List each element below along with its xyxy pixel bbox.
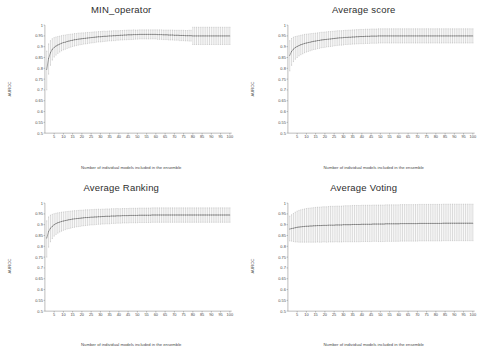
svg-text:10: 10 [61, 312, 66, 317]
plot-area-average-score: 0.50.550.60.650.70.750.80.850.90.9515101… [271, 22, 478, 146]
svg-text:0.85: 0.85 [35, 55, 43, 60]
svg-text:0.85: 0.85 [35, 232, 43, 237]
svg-text:0.8: 0.8 [37, 243, 43, 248]
svg-text:25: 25 [89, 312, 94, 317]
svg-text:70: 70 [415, 312, 420, 317]
errorbar-chart-average-ranking: 0.50.550.60.650.70.750.80.850.90.9515101… [28, 200, 235, 324]
svg-text:15: 15 [313, 312, 318, 317]
svg-text:95: 95 [461, 134, 466, 139]
svg-text:0.75: 0.75 [278, 76, 286, 81]
svg-text:0.95: 0.95 [278, 211, 286, 216]
svg-text:0.5: 0.5 [280, 130, 286, 135]
plot-area-min-operator: 0.50.550.60.650.70.750.80.850.90.9515101… [28, 22, 235, 146]
svg-text:15: 15 [313, 134, 318, 139]
svg-text:0.85: 0.85 [278, 55, 286, 60]
errorbar-chart-average-voting: 0.50.550.60.650.70.750.80.850.90.9515101… [271, 200, 478, 324]
svg-text:0.55: 0.55 [35, 120, 43, 125]
svg-text:0.7: 0.7 [280, 265, 286, 270]
svg-text:25: 25 [89, 134, 94, 139]
svg-text:95: 95 [218, 312, 223, 317]
svg-text:15: 15 [70, 134, 75, 139]
svg-text:100: 100 [469, 312, 476, 317]
svg-text:30: 30 [98, 134, 103, 139]
svg-text:20: 20 [322, 134, 327, 139]
svg-text:0.55: 0.55 [35, 297, 43, 302]
svg-text:65: 65 [163, 312, 168, 317]
svg-text:55: 55 [387, 134, 392, 139]
svg-text:0.6: 0.6 [280, 109, 286, 114]
svg-text:55: 55 [144, 134, 149, 139]
svg-text:0.9: 0.9 [280, 221, 286, 226]
svg-text:0.6: 0.6 [37, 109, 43, 114]
svg-text:1: 1 [41, 200, 44, 205]
svg-text:20: 20 [322, 312, 327, 317]
panel-title: Average Ranking [0, 182, 243, 193]
svg-text:30: 30 [341, 312, 346, 317]
errorbar-chart-average-score: 0.50.550.60.650.70.750.80.850.90.9515101… [271, 22, 478, 146]
svg-text:25: 25 [331, 134, 336, 139]
svg-text:20: 20 [80, 134, 85, 139]
panel-average-ranking: Average Ranking 0.50.550.60.650.70.750.8… [0, 178, 243, 355]
svg-text:0.65: 0.65 [35, 275, 43, 280]
panel-average-voting: Average Voting 0.50.550.60.650.70.750.80… [243, 178, 485, 355]
svg-text:0.9: 0.9 [37, 44, 43, 49]
svg-text:35: 35 [107, 312, 112, 317]
svg-text:0.9: 0.9 [280, 44, 286, 49]
svg-text:40: 40 [359, 134, 364, 139]
svg-text:5: 5 [296, 312, 299, 317]
svg-text:0.8: 0.8 [280, 243, 286, 248]
svg-text:30: 30 [341, 134, 346, 139]
svg-text:0.5: 0.5 [37, 308, 43, 313]
svg-text:50: 50 [378, 134, 383, 139]
svg-text:90: 90 [452, 134, 457, 139]
svg-text:1: 1 [283, 200, 286, 205]
svg-text:0.65: 0.65 [35, 98, 43, 103]
svg-text:15: 15 [70, 312, 75, 317]
panel-title: MIN_operator [0, 4, 243, 15]
svg-text:20: 20 [80, 312, 85, 317]
svg-text:25: 25 [331, 312, 336, 317]
svg-text:60: 60 [396, 134, 401, 139]
svg-text:45: 45 [368, 134, 373, 139]
svg-text:0.95: 0.95 [35, 33, 43, 38]
svg-text:0.8: 0.8 [280, 66, 286, 71]
svg-text:100: 100 [469, 134, 476, 139]
svg-text:0.6: 0.6 [37, 286, 43, 291]
svg-text:0.85: 0.85 [278, 232, 286, 237]
x-axis-label: Number of individual models included in … [271, 165, 478, 170]
svg-text:30: 30 [98, 312, 103, 317]
svg-text:0.65: 0.65 [278, 275, 286, 280]
y-axis-label: AUROC [250, 81, 255, 96]
svg-text:35: 35 [350, 312, 355, 317]
svg-text:0.7: 0.7 [37, 87, 43, 92]
svg-text:40: 40 [117, 312, 122, 317]
svg-text:5: 5 [53, 312, 56, 317]
svg-text:90: 90 [209, 312, 214, 317]
y-axis-label: AUROC [7, 81, 12, 96]
svg-text:10: 10 [304, 312, 309, 317]
svg-text:95: 95 [461, 312, 466, 317]
svg-text:10: 10 [61, 134, 66, 139]
panel-average-score: Average score 0.50.550.60.650.70.750.80.… [243, 0, 485, 178]
svg-text:1: 1 [41, 22, 44, 27]
svg-text:35: 35 [107, 134, 112, 139]
svg-text:90: 90 [209, 134, 214, 139]
svg-text:0.7: 0.7 [280, 87, 286, 92]
plot-area-average-ranking: 0.50.550.60.650.70.750.80.850.90.9515101… [28, 200, 235, 324]
svg-text:45: 45 [368, 312, 373, 317]
svg-text:100: 100 [227, 312, 234, 317]
svg-text:75: 75 [181, 312, 186, 317]
svg-text:80: 80 [191, 134, 196, 139]
svg-text:100: 100 [227, 134, 234, 139]
svg-text:0.95: 0.95 [35, 211, 43, 216]
svg-text:55: 55 [387, 312, 392, 317]
svg-text:90: 90 [452, 312, 457, 317]
svg-text:60: 60 [396, 312, 401, 317]
svg-text:0.5: 0.5 [37, 130, 43, 135]
svg-text:0.9: 0.9 [37, 221, 43, 226]
svg-text:85: 85 [200, 134, 205, 139]
svg-text:85: 85 [442, 312, 447, 317]
svg-text:0.75: 0.75 [278, 254, 286, 259]
plot-area-average-voting: 0.50.550.60.650.70.750.80.850.90.9515101… [271, 200, 478, 324]
svg-text:65: 65 [405, 134, 410, 139]
